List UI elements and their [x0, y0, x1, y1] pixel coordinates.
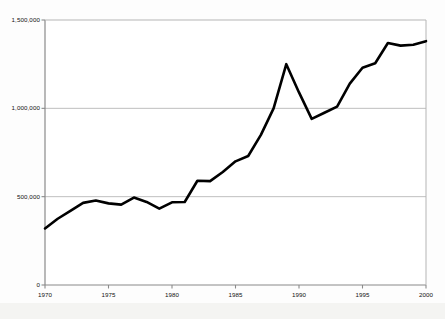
chart-container: 1,500,0001,000,000500,0000 1970197519801… [0, 0, 445, 319]
x-axis-label: 1975 [95, 291, 123, 298]
x-axis-label: 2000 [412, 291, 440, 298]
y-axis-label: 1,000,000 [12, 104, 40, 111]
plot-background [45, 20, 426, 285]
x-axis-label: 1980 [158, 291, 186, 298]
line-chart-plot [0, 0, 445, 319]
y-axis-label: 0 [36, 281, 40, 288]
x-axis-label: 1990 [285, 291, 313, 298]
x-axis-label: 1995 [349, 291, 377, 298]
x-axis-label: 1985 [222, 291, 250, 298]
y-axis-label: 1,500,000 [12, 16, 40, 23]
y-axis-label: 500,000 [17, 193, 40, 200]
x-axis-label: 1970 [31, 291, 59, 298]
